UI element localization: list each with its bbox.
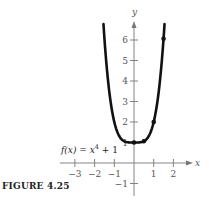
x-axis-arrow-icon xyxy=(186,161,193,166)
function-label-main: f(x) = x xyxy=(60,145,95,155)
x-tick-label: 2 xyxy=(171,169,177,179)
x-tick-label: −1 xyxy=(108,169,121,179)
y-axis-arrow-icon xyxy=(132,21,137,28)
y-tick-label: 3 xyxy=(122,97,128,107)
data-point xyxy=(142,139,147,144)
marked-points xyxy=(132,36,166,144)
y-tick-label: 4 xyxy=(122,76,128,86)
function-label: f(x) = x4 + 1 xyxy=(60,143,118,155)
y-tick-label: 2 xyxy=(122,117,128,127)
x-axis-label: x xyxy=(195,158,200,168)
x-tick-label: −2 xyxy=(88,169,101,179)
function-label-constant: + 1 xyxy=(99,145,118,155)
x-ticks: −3−2−112 xyxy=(68,159,176,179)
y-tick-label: −1 xyxy=(115,179,128,189)
data-point xyxy=(161,36,166,41)
x-tick-label: −3 xyxy=(68,169,82,179)
y-ticks: −1123456 xyxy=(115,35,138,189)
y-tick-label: 6 xyxy=(122,35,128,45)
y-axis-label: y xyxy=(131,7,138,17)
function-graph-figure: −3−2−112 −1123456 x y f(x) = x4 + 1 FIGU… xyxy=(0,0,209,203)
x-tick-label: 1 xyxy=(151,169,157,179)
figure-caption: FIGURE 4.25 xyxy=(2,181,70,191)
y-tick-label: 5 xyxy=(122,56,128,66)
data-point xyxy=(151,120,156,125)
data-point xyxy=(132,140,137,145)
